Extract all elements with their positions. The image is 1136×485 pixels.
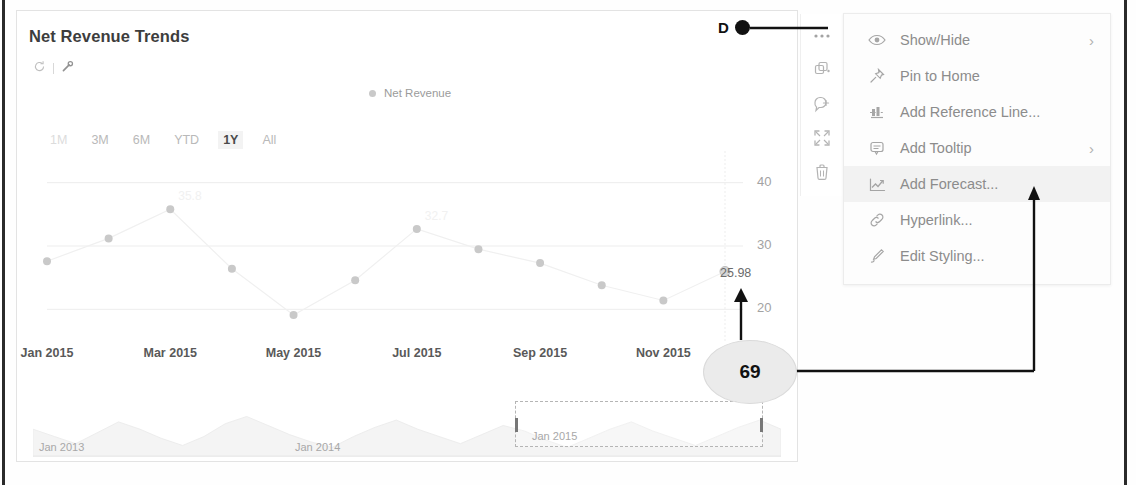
range-button-1y[interactable]: 1Y <box>218 131 243 149</box>
range-button-6m[interactable]: 6M <box>128 131 155 149</box>
x-axis-tick: May 2015 <box>266 346 322 360</box>
range-button-all[interactable]: All <box>257 131 281 149</box>
add-comment-icon[interactable] <box>811 94 833 114</box>
x-axis-tick: Mar 2015 <box>144 346 198 360</box>
range-navigator[interactable]: Jan 2013 Jan 2014 Jan 2015 <box>33 399 781 457</box>
chart-context-menu[interactable]: Show/Hide › Pin to Home Add Re <box>843 13 1111 285</box>
chart-plot-area[interactable]: 35.832.7 <box>33 151 781 341</box>
eye-icon <box>866 33 888 47</box>
svg-text:32.7: 32.7 <box>425 209 449 223</box>
x-axis-tick: Nov 2015 <box>636 346 691 360</box>
menu-item-label: Edit Styling... <box>900 248 1098 264</box>
header-icon-divider <box>53 63 54 74</box>
range-button-1m[interactable]: 1M <box>45 131 72 149</box>
menu-item-hyperlink[interactable]: Hyperlink... <box>844 202 1110 238</box>
duplicate-icon[interactable] <box>811 60 833 80</box>
x-axis-tick: Sep 2015 <box>513 346 567 360</box>
card-tool-strip <box>800 14 842 196</box>
range-button-3m[interactable]: 3M <box>86 131 113 149</box>
refresh-icon[interactable] <box>33 59 46 77</box>
menu-item-label: Pin to Home <box>900 68 1098 84</box>
pin-icon <box>866 68 888 84</box>
navigator-handle-left[interactable] <box>515 418 518 432</box>
data-point-label-25-98: 25.98 <box>720 266 751 280</box>
expand-icon[interactable] <box>811 128 833 148</box>
chevron-right-icon: › <box>1089 140 1098 157</box>
frame-border-right <box>1124 0 1127 485</box>
card-header-icons <box>33 59 74 77</box>
chevron-right-icon: › <box>1089 32 1098 49</box>
brush-icon <box>866 248 888 264</box>
y-axis-tick-40: 40 <box>757 174 771 189</box>
menu-item-add-reference-line[interactable]: Add Reference Line... <box>844 94 1110 130</box>
menu-item-add-forecast[interactable]: Add Forecast... <box>844 166 1110 202</box>
page-title: Net Revenue Trends <box>29 27 189 46</box>
menu-item-label: Add Tooltip <box>900 140 1089 156</box>
x-axis-labels: Jan 2015Mar 2015May 2015Jul 2015Sep 2015… <box>33 346 781 368</box>
forecast-chart-icon <box>866 177 888 192</box>
range-button-ytd[interactable]: YTD <box>169 131 204 149</box>
legend-swatch-net-revenue <box>369 90 376 97</box>
tooltip-icon <box>866 140 888 156</box>
reference-line-icon <box>866 104 888 120</box>
navigator-label-jan-2014: Jan 2014 <box>295 441 340 453</box>
menu-item-label: Show/Hide <box>900 32 1089 48</box>
navigator-label-jan-2015: Jan 2015 <box>532 430 577 442</box>
link-icon <box>866 212 888 228</box>
x-axis-tick: Jan 2015 <box>21 346 74 360</box>
chart-svg: 35.832.7 <box>33 151 781 341</box>
net-revenue-chart-card: Net Revenue Trends Net Revenue 1M <box>16 10 798 462</box>
menu-item-pin-to-home[interactable]: Pin to Home <box>844 58 1110 94</box>
y-axis-tick-30: 30 <box>757 237 771 252</box>
chart-legend[interactable]: Net Revenue <box>369 87 451 99</box>
time-range-selector[interactable]: 1M 3M 6M YTD 1Y All <box>45 131 281 149</box>
delete-icon[interactable] <box>811 162 833 182</box>
legend-label-net-revenue: Net Revenue <box>384 87 451 99</box>
menu-item-label: Add Reference Line... <box>900 104 1098 120</box>
menu-item-edit-styling[interactable]: Edit Styling... <box>844 238 1110 274</box>
menu-item-show-hide[interactable]: Show/Hide › <box>844 22 1110 58</box>
menu-item-add-tooltip[interactable]: Add Tooltip › <box>844 130 1110 166</box>
wrench-icon[interactable] <box>61 59 74 77</box>
screenshot-canvas: Net Revenue Trends Net Revenue 1M <box>0 0 1136 485</box>
frame-border-left <box>2 0 5 485</box>
navigator-handle-right[interactable] <box>760 418 763 432</box>
y-axis-tick-20: 20 <box>757 300 771 315</box>
menu-item-label: Hyperlink... <box>900 212 1098 228</box>
more-options-icon[interactable] <box>811 26 833 46</box>
navigator-label-jan-2013: Jan 2013 <box>39 441 84 453</box>
menu-item-label: Add Forecast... <box>900 176 1098 192</box>
svg-text:35.8: 35.8 <box>178 189 202 203</box>
x-axis-tick: Jul 2015 <box>392 346 441 360</box>
navigator-selection-window[interactable]: Jan 2015 <box>515 401 763 447</box>
